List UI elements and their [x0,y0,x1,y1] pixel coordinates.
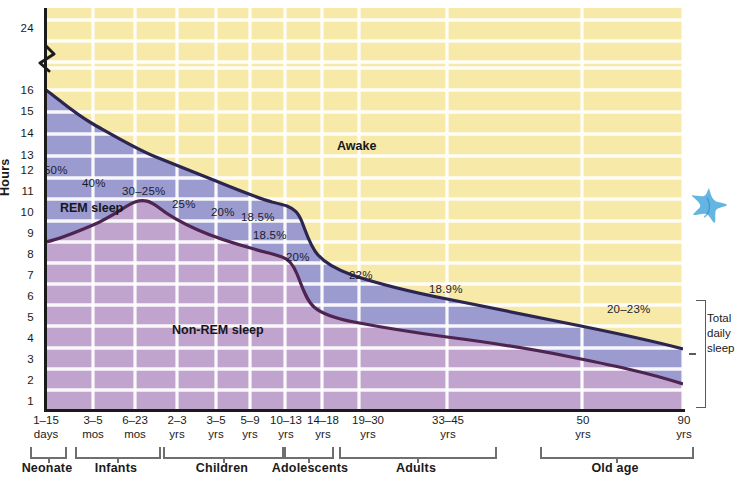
y-tick-4: 4 [8,332,34,344]
annotation-rem-pct-1: 40% [82,177,106,189]
x-tick-10: 50 yrs [548,414,618,441]
y-tick-3: 3 [8,353,34,365]
annotation-rem-pct-10: 20–23% [607,303,650,315]
y-tick-5: 5 [8,311,34,323]
band-label-non-rem-sleep: Non-REM sleep [172,323,264,337]
y-tick-11: 11 [8,185,34,197]
x-tick-11-line2: yrs [649,428,719,442]
x-tick-10-line2: yrs [548,428,618,442]
age-group-label-infants: Infants [64,461,168,475]
y-axis-break-icon [36,44,58,74]
total-daily-sleep-label: Total daily sleep [707,311,735,356]
y-tick-15: 15 [8,105,34,117]
y-tick-10: 10 [8,206,34,218]
y-tick-13: 13 [8,149,34,161]
annotation-rem-pct-2: 30–25% [122,185,165,197]
bracket-stem [689,353,696,355]
x-tick-9-line1: 33–45 [432,414,464,426]
annotation-rem-pct-7: 20% [286,251,310,263]
age-group-bracket-adults [339,447,497,459]
y-tick-1: 1 [8,395,34,407]
total-daily-sleep-line3: sleep [707,341,735,356]
age-group-label-adults: Adults [364,461,468,475]
x-tick-11: 90 yrs [649,414,719,441]
sleep-chart: Hours 24 16 15 14 13 12 11 10 9 8 7 6 5 … [0,0,747,485]
x-tick-9: 33–45 yrs [413,414,483,441]
plot-area [46,8,683,410]
total-daily-sleep-line2: daily [707,326,735,341]
plot-svg [46,8,683,410]
star-icon [686,184,730,228]
band-label-rem-sleep: REM sleep [60,201,123,215]
annotation-rem-pct-4: 20% [211,206,235,218]
y-tick-12: 12 [8,164,34,176]
y-tick-16: 16 [8,84,34,96]
y-tick-9: 9 [8,227,34,239]
age-group-bracket-infants [75,447,161,459]
x-tick-0-line1: 1–15 [33,414,59,426]
x-tick-11-line1: 90 [678,414,691,426]
total-daily-sleep-line1: Total [707,311,735,326]
y-tick-14: 14 [8,127,34,139]
y-tick-2: 2 [8,374,34,386]
x-tick-9-line2: yrs [413,428,483,442]
annotation-rem-pct-8: 22% [349,269,373,281]
y-tick-7: 7 [8,269,34,281]
annotation-rem-pct-0: 50% [44,164,68,176]
x-tick-10-line1: 50 [577,414,590,426]
age-group-label-old-age: Old age [563,461,667,475]
annotation-rem-pct-5: 18.5% [241,211,275,223]
x-tick-8-line2: yrs [333,428,403,442]
age-group-label-adolescents: Adolescents [258,461,362,475]
y-tick-8: 8 [8,248,34,260]
annotation-rem-pct-3: 25% [172,198,196,210]
age-group-bracket-children [163,447,284,459]
age-group-bracket-old-age [540,447,694,459]
y-tick-24: 24 [8,22,34,34]
x-tick-8-line1: 19–30 [352,414,384,426]
y-tick-6: 6 [8,290,34,302]
age-group-bracket-neonate [30,447,67,459]
x-tick-8: 19–30 yrs [333,414,403,441]
x-axis-line [44,409,685,412]
total-daily-sleep-bracket [696,300,706,408]
band-label-awake: Awake [337,139,376,153]
annotation-rem-pct-9: 18.9% [429,283,463,295]
annotation-rem-pct-6: 18.5% [253,229,287,241]
age-group-bracket-adolescents [284,447,334,459]
